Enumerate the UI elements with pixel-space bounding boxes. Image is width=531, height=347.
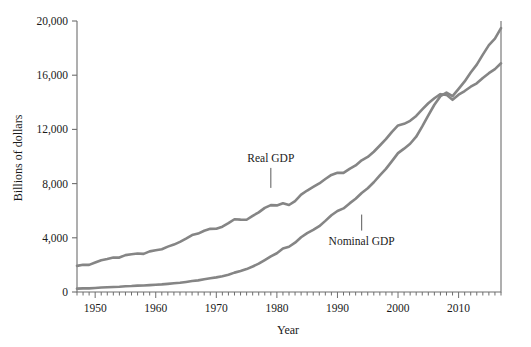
y-tick-label: 4,000 (42, 232, 68, 245)
gdp-chart: 04,0008,00012,00016,00020,000 1950196019… (0, 0, 531, 347)
series-line-real-gdp (77, 63, 501, 266)
x-tick-label: 2000 (387, 302, 410, 314)
series-label-real-gdp: Real GDP (247, 152, 294, 164)
y-tick-label: 0 (62, 286, 68, 298)
series-label-nominal-gdp: Nominal GDP (329, 235, 395, 247)
y-tick-label: 16,000 (36, 69, 68, 82)
y-tick-label: 20,000 (36, 15, 68, 28)
y-axis-title: Billions of dollars (11, 114, 25, 201)
y-axis-tick-labels: 04,0008,00012,00016,00020,000 (36, 15, 68, 298)
x-tick-label: 2010 (447, 302, 470, 314)
chart-canvas: 04,0008,00012,00016,00020,000 1950196019… (0, 0, 531, 347)
y-tick-label: 8,000 (42, 178, 68, 191)
x-tick-label: 1970 (205, 302, 228, 314)
x-tick-label: 1990 (326, 302, 349, 314)
x-tick-label: 1980 (265, 302, 288, 314)
x-axis-title: Year (277, 323, 299, 337)
series-annotations: Real GDPNominal GDP (247, 152, 394, 247)
y-tick-label: 12,000 (36, 123, 68, 136)
x-tick-label: 1960 (144, 302, 167, 314)
x-tick-label: 1950 (84, 302, 107, 314)
x-axis-tick-labels: 1950196019701980199020002010 (84, 302, 471, 314)
